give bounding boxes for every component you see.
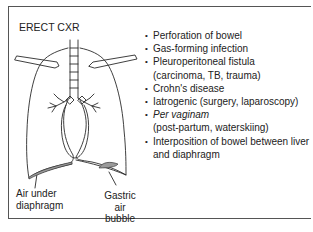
bullet-icon: •	[145, 95, 148, 108]
cause-text: Pleuroperitoneal fistula	[153, 56, 255, 67]
gastric-bubble-shape	[99, 162, 118, 168]
bullet-icon: •	[145, 82, 148, 95]
air-under-diaphragm-shape	[29, 162, 72, 179]
list-item: • Per vaginam (post-partum, waterskiing)	[144, 108, 312, 134]
cause-text: Interposition of bowel between liver	[153, 136, 309, 147]
cause-text: Crohn's disease	[153, 83, 224, 94]
list-item: • Interposition of bowel between liver a…	[144, 135, 312, 161]
label-line: Gastric	[100, 190, 140, 202]
bullet-icon: •	[145, 29, 148, 42]
label-line: Air under	[16, 188, 63, 200]
clavicle-icon	[15, 55, 137, 68]
cause-subtext: and diaphragm	[153, 148, 312, 161]
label-line: air	[100, 202, 140, 214]
cause-text: Iatrogenic (surgery, laparoscopy)	[153, 96, 298, 107]
list-item: • Crohn's disease	[144, 82, 312, 95]
label-line: bubble	[100, 213, 140, 225]
cause-text: Per vaginam	[153, 109, 209, 120]
bronchi-icon	[48, 94, 100, 112]
trachea-icon	[70, 40, 78, 98]
air-under-diaphragm-label: Air under diaphragm	[16, 188, 63, 211]
bullet-icon: •	[145, 135, 148, 148]
cause-subtext: (carcinoma, TB, trauma)	[153, 69, 312, 82]
list-item: • Iatrogenic (surgery, laparoscopy)	[144, 95, 312, 108]
cause-text: Perforation of bowel	[153, 30, 242, 41]
bullet-icon: •	[145, 42, 148, 55]
right-lung-outline	[27, 48, 74, 178]
list-item: • Perforation of bowel	[144, 29, 312, 42]
cause-text: Gas-forming infection	[153, 43, 248, 54]
causes-list: • Perforation of bowel • Gas-forming inf…	[144, 29, 312, 161]
gastric-air-bubble-label: Gastric air bubble	[100, 190, 140, 225]
list-item: • Gas-forming infection	[144, 42, 312, 55]
bullet-icon: •	[145, 55, 148, 68]
list-item: • Pleuroperitoneal fistula (carcinoma, T…	[144, 55, 312, 81]
label-line: diaphragm	[16, 200, 63, 212]
cause-subtext: (post-partum, waterskiing)	[153, 121, 312, 134]
bullet-icon: •	[145, 108, 148, 121]
